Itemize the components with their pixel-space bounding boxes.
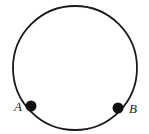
point-a-dot	[26, 101, 37, 112]
diagram-canvas: A B	[0, 0, 149, 134]
point-b-dot	[113, 103, 124, 114]
point-a-label: A	[13, 99, 22, 114]
circle-diagram: A B	[0, 0, 149, 134]
point-b-label: B	[129, 101, 137, 116]
